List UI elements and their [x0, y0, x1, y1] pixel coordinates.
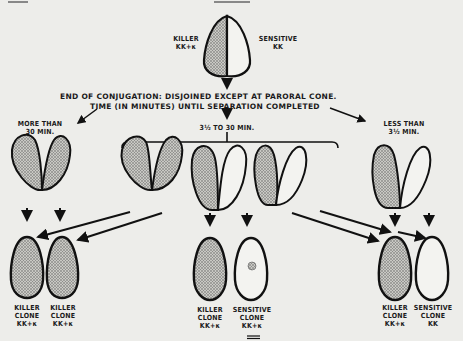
stage-caption-line2: TIME (IN MINUTES) UNTIL SEPARATION COMPL… — [90, 102, 320, 111]
branch-label-more-than-30: MORE THAN 30 MIN. — [14, 120, 66, 136]
page-header-marks — [8, 1, 250, 3]
clone-label-4: SENSITIVE CLONE KK+κ — [228, 306, 276, 330]
stage-caption-line1: END OF CONJUGATION: DISJOINED EXCEPT AT … — [60, 92, 337, 101]
top-sensitive-label: SENSITIVE KK — [255, 35, 301, 51]
sensitive-clone-2 — [416, 237, 448, 300]
top-killer-label: KILLER KK+κ — [168, 35, 204, 51]
killer-clone-2 — [47, 237, 78, 298]
pair-less-than-3.5 — [373, 145, 431, 208]
group-bracket — [122, 142, 338, 148]
kappa-particle-spot — [248, 262, 256, 270]
arrow-left-branch — [78, 109, 97, 123]
cross-arrows — [38, 211, 425, 241]
clone-label-1: KILLER CLONE KK+κ — [7, 304, 47, 328]
pair-mid-2 — [192, 146, 247, 210]
pair-mid-1 — [121, 137, 182, 190]
clones — [11, 237, 448, 300]
pair-mid-3 — [255, 146, 307, 205]
branch-label-3.5-to-30: 3½ TO 30 MIN. — [190, 124, 264, 132]
killer-clone-1 — [11, 237, 43, 298]
clone-label-6: SENSITIVE CLONE KK — [409, 304, 457, 328]
killer-clone-4 — [379, 237, 411, 300]
conjugation-diagram — [0, 0, 463, 341]
pair-more-than-30 — [12, 135, 70, 190]
clone-label-3: KILLER CLONE KK+κ — [190, 306, 230, 330]
descent-arrows — [27, 208, 429, 225]
killer-clone-3 — [194, 238, 226, 300]
clone-label-2: KILLER CLONE KK+κ — [43, 304, 83, 328]
branch-label-less-than-3.5: LESS THAN 3½ MIN. — [378, 120, 430, 136]
arrow-right-branch — [330, 108, 365, 121]
conjugating-pair — [204, 16, 250, 76]
